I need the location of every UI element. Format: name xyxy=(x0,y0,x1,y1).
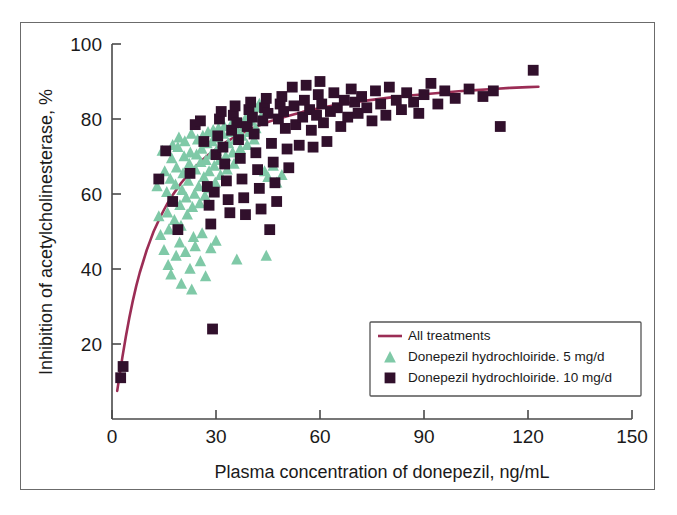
scatter-marker-square xyxy=(478,91,489,102)
scatter-marker-square xyxy=(419,89,430,100)
scatter-marker-square xyxy=(223,194,234,205)
scatter-marker-square xyxy=(231,117,242,128)
x-tick-label: 150 xyxy=(616,426,648,447)
scatter-marker-square xyxy=(167,196,178,207)
scatter-marker-square xyxy=(294,140,305,151)
scatter-marker-square xyxy=(396,104,407,115)
scatter-marker-square xyxy=(299,95,310,106)
chart-canvas: 030609012015020406080100 Plasma concentr… xyxy=(0,0,677,515)
scatter-marker-square xyxy=(322,136,333,147)
scatter-marker-square xyxy=(306,125,317,136)
scatter-marker-square xyxy=(207,324,218,335)
x-axis-title: Plasma concentration of donepezil, ng/mL xyxy=(214,462,549,482)
scatter-marker-square xyxy=(252,164,263,175)
scatter-marker-square xyxy=(287,82,298,93)
scatter-marker-square xyxy=(432,99,443,110)
scatter-marker-square xyxy=(282,144,293,155)
scatter-marker-triangle xyxy=(155,229,166,240)
scatter-marker-square xyxy=(224,207,235,218)
scatter-marker-square xyxy=(185,168,196,179)
x-tick-label: 0 xyxy=(107,426,118,447)
scatter-marker-square xyxy=(249,129,260,140)
scatter-marker-square xyxy=(221,175,232,186)
scatter-marker-square xyxy=(370,85,381,96)
scatter-marker-square xyxy=(276,91,287,102)
scatter-marker-square xyxy=(384,82,395,93)
scatter-marker-square xyxy=(375,99,386,110)
y-tick-label: 20 xyxy=(81,334,102,355)
scatter-marker-square xyxy=(219,159,230,170)
x-tick-label: 90 xyxy=(413,426,434,447)
scatter-marker-square xyxy=(204,200,215,211)
scatter-marker-square xyxy=(237,174,248,185)
y-tick-label: 40 xyxy=(81,259,102,280)
scatter-marker-square xyxy=(172,224,183,235)
scatter-marker-square xyxy=(401,87,412,98)
scatter-marker-triangle xyxy=(158,244,169,255)
scatter-marker-square xyxy=(245,97,256,108)
scatter-marker-square xyxy=(118,361,129,372)
scatter-marker-square xyxy=(361,102,372,113)
scatter-marker-square xyxy=(283,162,294,173)
scatter-marker-square xyxy=(261,93,272,104)
scatter-marker-square xyxy=(528,65,539,76)
scatter-marker-triangle xyxy=(195,255,206,266)
scatter-marker-square xyxy=(426,78,437,89)
scatter-marker-square xyxy=(266,138,277,149)
scatter-marker-square xyxy=(289,100,300,111)
legend-label: Donepezil hydrochloiride. 5 mg/d xyxy=(408,349,605,364)
scatter-marker-square xyxy=(450,93,461,104)
scatter-marker-square xyxy=(339,95,350,106)
y-axis-title: Inhibition of acetylcholinesterase, % xyxy=(36,89,56,375)
scatter-marker-triangle xyxy=(184,263,195,274)
scatter-marker-square xyxy=(356,91,367,102)
scatter-marker-square xyxy=(216,106,227,117)
scatter-marker-square xyxy=(268,157,279,168)
scatter-marker-square xyxy=(342,112,353,123)
scatter-marker-square xyxy=(240,209,251,220)
figure-root: 030609012015020406080100 Plasma concentr… xyxy=(0,0,677,515)
scatter-marker-square xyxy=(218,142,229,153)
scatter-marker-square xyxy=(495,121,506,132)
scatter-marker-square xyxy=(238,192,249,203)
scatter-marker-square xyxy=(264,224,275,235)
scatter-marker-triangle xyxy=(186,283,197,294)
scatter-marker-square xyxy=(212,130,223,141)
scatter-marker-square xyxy=(271,196,282,207)
scatter-marker-square xyxy=(198,136,209,147)
scatter-marker-square xyxy=(380,110,391,121)
scatter-marker-square xyxy=(328,87,339,98)
legend-swatch-square xyxy=(385,373,396,384)
scatter-marker-square xyxy=(209,187,220,198)
scatter-marker-square xyxy=(308,142,319,153)
scatter-marker-square xyxy=(367,115,378,126)
scatter-marker-square xyxy=(195,115,206,126)
legend-label: Donepezil hydrochloiride. 10 mg/d xyxy=(408,370,612,385)
chart-legend: All treatmentsDonepezil hydrochloiride. … xyxy=(370,322,641,396)
scatter-marker-square xyxy=(160,145,171,156)
scatter-marker-square xyxy=(233,134,244,145)
scatter-marker-triangle xyxy=(231,253,242,264)
scatter-marker-square xyxy=(278,106,289,117)
scatter-marker-square xyxy=(301,80,312,91)
y-tick-label: 60 xyxy=(81,184,102,205)
scatter-marker-triangle xyxy=(176,278,187,289)
scatter-marker-square xyxy=(247,112,258,123)
scatter-marker-square xyxy=(270,177,281,188)
scatter-marker-square xyxy=(115,372,126,383)
scatter-marker-square xyxy=(250,147,261,158)
scatter-marker-square xyxy=(335,121,346,132)
scatter-marker-triangle xyxy=(261,250,272,261)
scatter-marker-square xyxy=(235,153,246,164)
x-tick-label: 120 xyxy=(512,426,544,447)
y-tick-label: 100 xyxy=(70,34,102,55)
scatter-marker-triangle xyxy=(170,250,181,261)
scatter-marker-square xyxy=(488,85,499,96)
scatter-marker-square xyxy=(313,89,324,100)
scatter-marker-square xyxy=(254,183,265,194)
scatter-marker-triangle xyxy=(174,237,185,248)
scatter-marker-square xyxy=(318,117,329,128)
scatter-marker-square xyxy=(315,76,326,87)
y-tick-label: 80 xyxy=(81,109,102,130)
scatter-marker-square xyxy=(464,84,475,95)
